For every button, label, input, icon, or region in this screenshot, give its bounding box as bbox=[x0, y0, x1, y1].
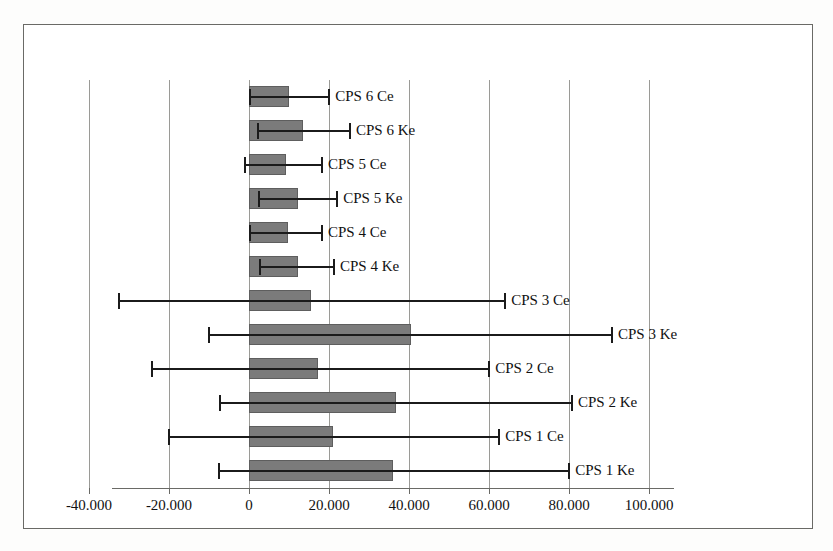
series-row: CPS 6 Ke bbox=[112, 114, 674, 148]
error-bar-cap-low bbox=[257, 123, 259, 139]
error-bar-cap-high bbox=[336, 191, 338, 207]
series-row: CPS 3 Ke bbox=[112, 318, 674, 352]
x-tick-mark bbox=[489, 488, 490, 494]
x-tick-label: -40.000 bbox=[66, 497, 112, 514]
x-tick-label: 0 bbox=[245, 497, 253, 514]
series-label: CPS 4 Ce bbox=[328, 222, 386, 243]
x-tick-mark bbox=[329, 488, 330, 494]
error-bar-cap-low bbox=[244, 157, 246, 173]
series-row: CPS 5 Ce bbox=[112, 148, 674, 182]
error-bar-line bbox=[258, 198, 336, 200]
series-label: CPS 5 Ke bbox=[343, 188, 402, 209]
series-row: CPS 2 Ke bbox=[112, 386, 674, 420]
x-tick-label: 80.000 bbox=[548, 497, 589, 514]
error-bar-cap-high bbox=[611, 327, 613, 343]
error-bar-line bbox=[118, 300, 504, 302]
chart-frame: CPS 6 CeCPS 6 KeCPS 5 CeCPS 5 KeCPS 4 Ce… bbox=[23, 24, 813, 529]
chart-figure: CPS 6 CeCPS 6 KeCPS 5 CeCPS 5 KeCPS 4 Ce… bbox=[0, 0, 833, 551]
error-bar-line bbox=[244, 164, 321, 166]
series-row: CPS 5 Ke bbox=[112, 182, 674, 216]
plot-area: CPS 6 CeCPS 6 KeCPS 5 CeCPS 5 KeCPS 4 Ce… bbox=[112, 80, 674, 488]
x-tick-mark bbox=[569, 488, 570, 494]
x-tick-mark bbox=[89, 488, 90, 494]
error-bar-cap-high bbox=[349, 123, 351, 139]
error-bar-cap-low bbox=[218, 463, 220, 479]
error-bar-line bbox=[249, 96, 328, 98]
series-label: CPS 5 Ce bbox=[328, 154, 386, 175]
series-label: CPS 2 Ke bbox=[578, 392, 637, 413]
error-bar-line bbox=[259, 266, 333, 268]
series-row: CPS 1 Ce bbox=[112, 420, 674, 454]
series-row: CPS 4 Ke bbox=[112, 250, 674, 284]
error-bar-line bbox=[249, 232, 321, 234]
error-bar-line bbox=[219, 402, 571, 404]
error-bar-cap-low bbox=[151, 361, 153, 377]
error-bar-line bbox=[151, 368, 488, 370]
series-label: CPS 4 Ke bbox=[340, 256, 399, 277]
error-bar-cap-low bbox=[259, 259, 261, 275]
error-bar-cap-low bbox=[118, 293, 120, 309]
x-tick-label: 60.000 bbox=[468, 497, 509, 514]
series-label: CPS 1 Ke bbox=[575, 460, 634, 481]
series-row: CPS 2 Ce bbox=[112, 352, 674, 386]
error-bar-cap-high bbox=[504, 293, 506, 309]
x-tick-mark bbox=[249, 488, 250, 494]
error-bar-cap-high bbox=[328, 89, 330, 105]
x-tick-mark bbox=[169, 488, 170, 494]
series-label: CPS 6 Ke bbox=[356, 120, 415, 141]
series-row: CPS 6 Ce bbox=[112, 80, 674, 114]
series-label: CPS 3 Ke bbox=[618, 324, 677, 345]
x-tick-mark bbox=[409, 488, 410, 494]
x-tick-label: -20.000 bbox=[146, 497, 192, 514]
series-row: CPS 4 Ce bbox=[112, 216, 674, 250]
error-bar-cap-high bbox=[488, 361, 490, 377]
series-label: CPS 2 Ce bbox=[495, 358, 553, 379]
x-tick-label: 100.000 bbox=[625, 497, 674, 514]
x-tick-label: 40.000 bbox=[388, 497, 429, 514]
series-row: CPS 1 Ke bbox=[112, 454, 674, 488]
series-row: CPS 3 Ce bbox=[112, 284, 674, 318]
x-tick-label: 20.000 bbox=[308, 497, 349, 514]
error-bar-cap-high bbox=[321, 225, 323, 241]
error-bar-line bbox=[208, 334, 611, 336]
series-label: CPS 3 Ce bbox=[511, 290, 569, 311]
error-bar-cap-high bbox=[321, 157, 323, 173]
series-label: CPS 1 Ce bbox=[505, 426, 563, 447]
error-bar-cap-low bbox=[168, 429, 170, 445]
error-bar-cap-high bbox=[333, 259, 335, 275]
error-bar-cap-low bbox=[258, 191, 260, 207]
x-tick-mark bbox=[649, 488, 650, 494]
error-bar-cap-high bbox=[498, 429, 500, 445]
gridline bbox=[89, 80, 90, 488]
error-bar-cap-low bbox=[249, 225, 251, 241]
error-bar-cap-low bbox=[249, 89, 251, 105]
error-bar-cap-high bbox=[571, 395, 573, 411]
error-bar-cap-high bbox=[568, 463, 570, 479]
error-bar-line bbox=[257, 130, 349, 132]
error-bar-cap-low bbox=[208, 327, 210, 343]
x-axis-line bbox=[112, 488, 674, 489]
series-label: CPS 6 Ce bbox=[335, 86, 393, 107]
error-bar-line bbox=[218, 470, 568, 472]
error-bar-cap-low bbox=[219, 395, 221, 411]
error-bar-line bbox=[168, 436, 498, 438]
